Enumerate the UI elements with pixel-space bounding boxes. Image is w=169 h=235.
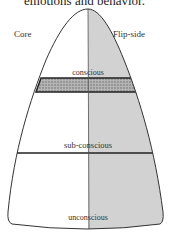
unconscious-label: unconscious bbox=[68, 213, 108, 222]
subconscious-label: sub-conscious bbox=[64, 140, 112, 150]
conscious-label: conscious bbox=[72, 68, 104, 77]
diagram-root: emotions and behavior. Core Flip-side co… bbox=[0, 0, 169, 235]
core-label: Core bbox=[14, 29, 32, 39]
cone-diagram: Core Flip-side conscious sub-conscious u… bbox=[0, 0, 169, 235]
flip-side-label: Flip-side bbox=[113, 29, 145, 39]
